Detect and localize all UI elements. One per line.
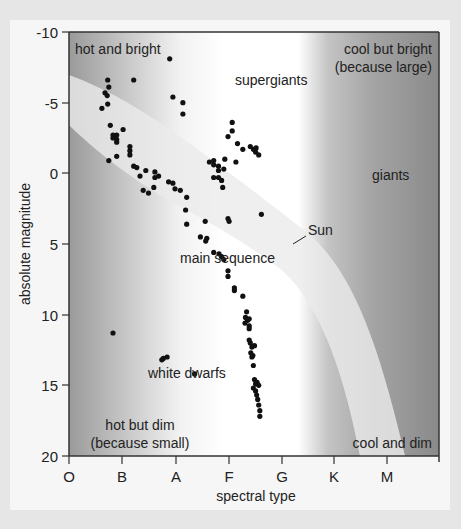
star-point	[114, 154, 119, 159]
star-point	[180, 100, 185, 105]
star-point	[216, 168, 221, 173]
star-point	[106, 85, 111, 90]
y-tick-label: 10	[41, 307, 58, 324]
label-because-large: (because large)	[335, 59, 432, 75]
label-white-dwarfs: white dwarfs	[147, 365, 226, 381]
star-point	[183, 207, 188, 212]
star-point	[257, 414, 262, 419]
star-point	[240, 294, 245, 299]
star-point	[256, 402, 261, 407]
x-axis-title: spectral type	[216, 488, 296, 504]
star-point	[211, 158, 216, 163]
star-point	[172, 186, 177, 191]
x-axis: O B A F G K M spectral type	[63, 456, 393, 504]
star-point	[143, 168, 148, 173]
star-point	[170, 181, 175, 186]
star-point	[184, 195, 189, 200]
star-point	[152, 169, 157, 174]
y-axis: -10 -5 0 5 10 15 20 absolute magnitude	[17, 24, 69, 465]
x-tick-label: M	[381, 468, 394, 485]
star-point	[198, 234, 203, 239]
plot-area	[69, 32, 439, 456]
star-point	[106, 158, 111, 163]
x-tick-label: G	[276, 468, 288, 485]
star-point	[259, 212, 264, 217]
star-point	[257, 408, 262, 413]
hr-diagram: -10 -5 0 5 10 15 20 absolute magnitude O…	[10, 20, 450, 510]
y-tick-label: -10	[36, 24, 58, 41]
x-tick-label: O	[63, 468, 75, 485]
label-because-small: (because small)	[91, 435, 190, 451]
x-tick-label: B	[117, 468, 127, 485]
star-point	[137, 174, 142, 179]
label-hot-and-bright: hot and bright	[75, 41, 161, 57]
star-point	[203, 239, 208, 244]
y-tick-label: 5	[50, 236, 58, 253]
star-point	[222, 157, 227, 162]
star-point	[235, 141, 240, 146]
star-point	[170, 94, 175, 99]
label-supergiants: supergiants	[235, 72, 307, 88]
star-point	[167, 56, 172, 61]
star-point	[232, 285, 237, 290]
star-point	[225, 268, 230, 273]
y-axis-title: absolute magnitude	[17, 183, 33, 305]
x-tick-label: A	[171, 468, 181, 485]
star-point	[99, 106, 104, 111]
star-point	[244, 309, 249, 314]
star-point	[127, 152, 132, 157]
star-point	[134, 165, 139, 170]
star-point	[252, 343, 257, 348]
star-point	[256, 152, 261, 157]
star-point	[180, 111, 185, 116]
x-tick-label: F	[224, 468, 233, 485]
star-point	[151, 185, 156, 190]
star-point	[233, 159, 238, 164]
label-sun: Sun	[308, 222, 333, 238]
star-point	[225, 134, 230, 139]
star-point	[211, 175, 216, 180]
star-point	[105, 77, 110, 82]
star-point	[230, 128, 235, 133]
y-tick-label: -5	[45, 95, 58, 112]
star-point	[114, 140, 119, 145]
label-cool-and-dim: cool and dim	[353, 435, 432, 451]
star-point	[105, 93, 110, 98]
star-point	[240, 147, 245, 152]
star-point	[250, 353, 255, 358]
x-tick-label: K	[329, 468, 339, 485]
star-point	[105, 102, 110, 107]
star-point	[161, 356, 166, 361]
star-point	[141, 188, 146, 193]
star-point	[184, 222, 189, 227]
star-point	[256, 383, 261, 388]
star-point	[108, 123, 113, 128]
star-point	[121, 127, 126, 132]
label-hot-but-dim: hot but dim	[105, 417, 174, 433]
y-tick-label: 0	[50, 165, 58, 182]
label-giants: giants	[372, 167, 409, 183]
y-tick-label: 20	[41, 448, 58, 465]
star-point	[219, 178, 224, 183]
star-point	[220, 185, 225, 190]
star-point	[156, 174, 161, 179]
star-point	[251, 363, 256, 368]
star-point	[227, 219, 232, 224]
star-point	[178, 188, 183, 193]
star-point	[247, 316, 252, 321]
star-point	[221, 167, 226, 172]
label-cool-but-bright: cool but bright	[344, 41, 432, 57]
label-main-sequence: main sequence	[180, 250, 275, 266]
star-point	[131, 77, 136, 82]
star-point	[247, 326, 252, 331]
star-point	[110, 330, 115, 335]
chart-card: -10 -5 0 5 10 15 20 absolute magnitude O…	[10, 20, 450, 510]
y-tick-label: 15	[41, 377, 58, 394]
star-point	[255, 397, 260, 402]
star-point	[146, 191, 151, 196]
star-point	[203, 219, 208, 224]
star-point	[230, 120, 235, 125]
star-point	[225, 274, 230, 279]
